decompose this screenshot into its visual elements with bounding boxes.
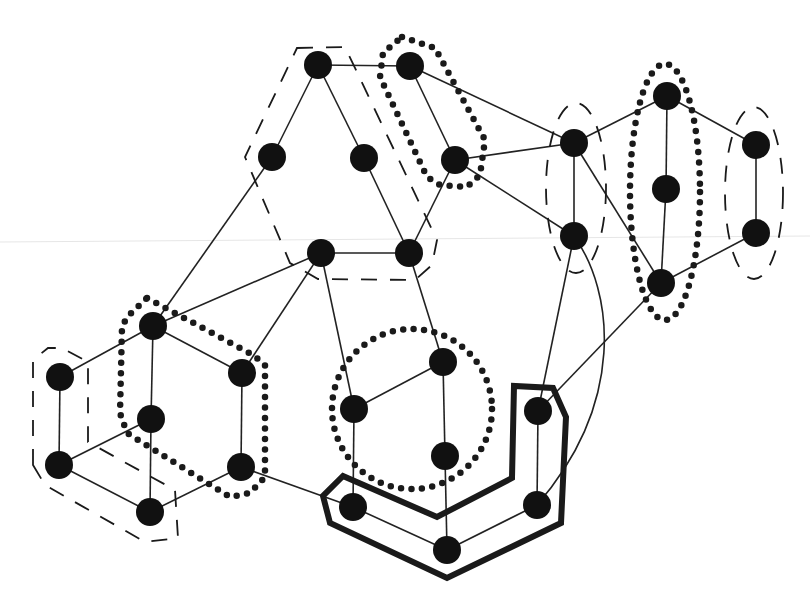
node-m xyxy=(742,131,770,159)
node-ab xyxy=(523,491,551,519)
graph-diagram xyxy=(0,0,810,600)
edge-a-c xyxy=(272,65,318,157)
edge-y-ab xyxy=(537,411,538,505)
edge-o-q xyxy=(153,326,242,373)
node-n xyxy=(742,219,770,247)
node-aa xyxy=(433,536,461,564)
node-p xyxy=(46,363,74,391)
node-r xyxy=(137,405,165,433)
edge-w-v xyxy=(354,362,443,409)
node-v xyxy=(429,348,457,376)
node-k xyxy=(652,175,680,203)
node-q xyxy=(228,359,256,387)
nodes-layer xyxy=(45,51,770,564)
node-f xyxy=(307,239,335,267)
edge-e-h xyxy=(455,143,574,160)
edge-v-x xyxy=(443,362,445,456)
edge-q-t xyxy=(241,373,242,467)
edge-t-u xyxy=(150,467,241,512)
edge-h-l xyxy=(574,143,661,283)
node-c xyxy=(258,143,286,171)
node-b xyxy=(396,52,424,80)
edge-a-d xyxy=(318,65,364,158)
edge-j-m xyxy=(667,96,756,145)
node-z xyxy=(339,493,367,521)
edge-w-z xyxy=(353,409,354,507)
node-o xyxy=(139,312,167,340)
node-t xyxy=(227,453,255,481)
node-j xyxy=(653,82,681,110)
edge-s-u xyxy=(59,465,150,512)
node-w xyxy=(340,395,368,423)
node-x xyxy=(431,442,459,470)
edge-e-i xyxy=(455,160,574,236)
node-h xyxy=(560,129,588,157)
node-y xyxy=(524,397,552,425)
edge-b-e xyxy=(410,66,455,160)
edge-h-j xyxy=(574,96,667,143)
node-u xyxy=(136,498,164,526)
edge-b-h xyxy=(410,66,574,143)
node-g xyxy=(395,239,423,267)
node-a xyxy=(304,51,332,79)
node-s xyxy=(45,451,73,479)
edge-x-aa xyxy=(445,456,447,550)
node-l xyxy=(647,269,675,297)
edge-o-p xyxy=(60,326,153,377)
node-e xyxy=(441,146,469,174)
group-outlines-layer xyxy=(33,37,783,578)
node-i xyxy=(560,222,588,250)
edge-l-n xyxy=(661,233,756,283)
edge-k-l xyxy=(661,189,666,283)
node-d xyxy=(350,144,378,172)
